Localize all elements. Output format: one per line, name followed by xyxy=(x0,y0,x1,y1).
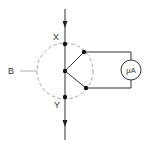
node-upper-right xyxy=(82,50,86,54)
branch-lower-wire xyxy=(65,71,86,88)
arrow-down-icon-top xyxy=(63,21,68,28)
node-y-label: Y xyxy=(54,100,60,110)
circuit-diagram: B μA X Y xyxy=(0,0,147,148)
node-x-label: X xyxy=(53,32,59,42)
node-lower-right xyxy=(84,86,88,90)
center-node xyxy=(63,69,67,73)
meter-loop-upper xyxy=(84,52,131,60)
arrow-down-icon-bottom xyxy=(63,120,68,127)
node-y xyxy=(63,95,67,99)
meter-loop-lower xyxy=(86,80,131,88)
branch-upper-wire xyxy=(65,52,84,71)
microammeter-label: μA xyxy=(126,66,135,75)
boundary-label-b: B xyxy=(8,66,14,76)
node-x xyxy=(63,42,67,46)
